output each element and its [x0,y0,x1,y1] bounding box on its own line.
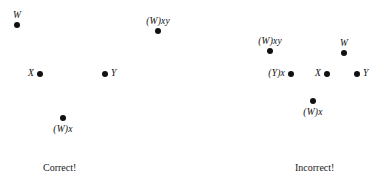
point-label: (W)x [303,108,322,118]
point-label: (W)x [53,125,72,135]
point-label: X [28,69,34,79]
point-dot [37,71,43,77]
panel-caption-correct: Correct! [43,163,76,173]
point-label: Y [111,69,116,79]
point-dot [102,71,108,77]
point-label: W [13,11,21,21]
point-dot [324,71,330,77]
point-dot [267,48,273,54]
diagram-panel-incorrect: (W)xyW(Y)xXY(W)x Incorrect! [195,0,387,187]
point-label: Y [363,69,368,79]
point-label: (W)xy [258,37,282,47]
diagram-panel-correct: W(W)xyXY(W)x Correct! [0,0,195,187]
point-label: W [340,39,348,49]
point-dot [310,98,316,104]
figure-canvas: W(W)xyXY(W)x Correct! (W)xyW(Y)xXY(W)x I… [0,0,387,187]
point-label: (Y)x [268,69,285,79]
point-dot [341,50,347,56]
point-dot [354,71,360,77]
point-label: (W)xy [146,17,170,27]
point-dot [155,28,161,34]
point-dot [14,22,20,28]
point-label: X [315,69,321,79]
point-dot [60,115,66,121]
panel-caption-incorrect: Incorrect! [295,163,334,173]
point-dot [288,71,294,77]
